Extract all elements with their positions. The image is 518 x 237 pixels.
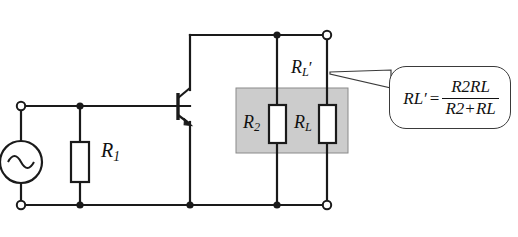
resistor-r1-body	[71, 142, 89, 182]
formula-callout: RL′ = R2RL R2+RL	[389, 66, 511, 129]
terminal-input-bottom	[17, 201, 25, 209]
label-r1: R1	[101, 140, 120, 163]
label-rl: RL	[294, 113, 312, 134]
resistor-rl-body	[319, 105, 336, 143]
resistor-r2-body	[269, 105, 286, 143]
terminal-input-top	[17, 102, 25, 110]
junction-dot-r1-top	[76, 102, 83, 109]
formula-lhs: RL′	[403, 89, 427, 109]
circuit-diagram: R1 R2 RL RL′ RL′ = R2RL R2+RL	[0, 0, 518, 237]
label-r2: R2	[243, 113, 260, 134]
formula-denominator: R2+RL	[442, 99, 498, 118]
formula-numerator: R2RL	[448, 78, 493, 97]
formula-content: RL′ = R2RL R2+RL	[390, 67, 512, 130]
junction-dot-emitter-bottom	[186, 201, 193, 208]
junction-dot-r2-bottom	[273, 201, 280, 208]
terminal-output-bottom	[323, 201, 331, 209]
junction-dot-r2-top	[273, 31, 280, 38]
terminal-output-top	[323, 31, 331, 39]
callout-leader-line	[330, 70, 391, 88]
formula-equals: =	[429, 89, 441, 109]
label-rl-prime: RL′	[291, 58, 313, 79]
formula-fraction: R2RL R2+RL	[442, 78, 498, 118]
junction-dot-r1-bottom	[76, 201, 83, 208]
